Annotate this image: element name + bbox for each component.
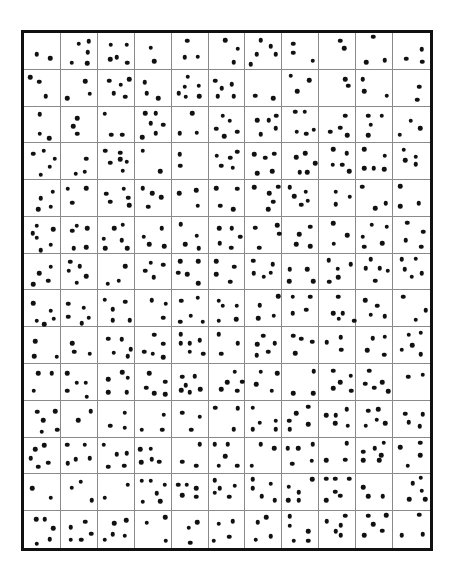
dot xyxy=(52,317,57,322)
dot xyxy=(141,234,146,239)
dot xyxy=(267,118,272,123)
dot xyxy=(48,165,53,170)
dot xyxy=(250,486,255,491)
grid-cell xyxy=(61,107,98,144)
dot xyxy=(122,463,127,468)
dot xyxy=(74,380,79,385)
dot xyxy=(273,126,278,131)
grid-cell xyxy=(209,70,246,107)
dot xyxy=(183,242,188,247)
dot xyxy=(419,352,424,357)
dot xyxy=(106,377,111,382)
dot xyxy=(157,460,162,465)
dot xyxy=(228,155,233,160)
dot xyxy=(255,353,260,358)
dot xyxy=(42,322,47,327)
grid-cell xyxy=(209,401,246,438)
grid-cell xyxy=(135,254,172,291)
dot xyxy=(240,379,245,384)
dot xyxy=(68,260,73,265)
dot xyxy=(119,337,124,342)
dot xyxy=(347,169,352,174)
dot xyxy=(106,465,111,470)
dot xyxy=(252,152,257,157)
dot xyxy=(287,279,292,284)
dot xyxy=(213,490,218,495)
dot xyxy=(345,133,350,138)
dot xyxy=(152,59,157,64)
dot xyxy=(291,334,296,339)
dot xyxy=(410,481,415,486)
grid-cell xyxy=(393,70,430,107)
dot xyxy=(287,267,292,272)
dot xyxy=(382,314,387,319)
dot xyxy=(236,46,241,51)
dot xyxy=(349,262,354,267)
dot xyxy=(65,371,70,376)
grid-cell xyxy=(98,254,135,291)
dot xyxy=(232,264,237,269)
dot xyxy=(217,226,222,231)
dot xyxy=(304,308,309,313)
dot xyxy=(236,341,241,346)
dot xyxy=(305,170,310,175)
dot xyxy=(229,82,234,87)
grid-cell xyxy=(282,364,319,401)
dot xyxy=(331,163,336,168)
dot xyxy=(287,484,292,489)
dot xyxy=(377,458,382,463)
dot xyxy=(366,409,371,414)
dot xyxy=(420,412,425,417)
dot xyxy=(158,499,163,504)
dot xyxy=(79,321,84,326)
dot xyxy=(400,533,405,538)
dot xyxy=(296,490,301,495)
grid-cell xyxy=(245,364,282,401)
dot xyxy=(310,442,315,447)
dot xyxy=(38,248,43,253)
dot xyxy=(149,457,154,462)
dot xyxy=(115,55,120,60)
dot xyxy=(418,126,423,131)
dot xyxy=(83,443,88,448)
dot xyxy=(33,339,38,344)
dot xyxy=(362,533,367,538)
dot xyxy=(345,441,350,446)
dot xyxy=(306,422,311,427)
dot xyxy=(72,246,77,251)
dot xyxy=(418,453,423,458)
dot xyxy=(258,420,263,425)
grid-cell xyxy=(24,474,61,511)
grid-cell xyxy=(209,254,246,291)
dot xyxy=(75,132,80,137)
dot xyxy=(159,195,164,200)
grid-cell xyxy=(319,143,356,180)
dot xyxy=(364,60,369,65)
dot xyxy=(123,264,128,269)
dot xyxy=(296,498,301,503)
dot xyxy=(179,388,184,393)
dot xyxy=(111,532,116,537)
dot xyxy=(108,57,113,62)
grid-cell xyxy=(135,180,172,217)
dot xyxy=(272,446,277,451)
grid-cell xyxy=(209,107,246,144)
dot xyxy=(406,374,411,379)
dot xyxy=(201,352,206,357)
dot xyxy=(312,128,317,133)
dot xyxy=(65,186,70,191)
dot xyxy=(184,483,189,488)
dot xyxy=(90,498,95,503)
dot xyxy=(299,203,304,208)
dot xyxy=(46,460,51,465)
grid-cell xyxy=(172,474,209,511)
dot xyxy=(180,493,185,498)
dot xyxy=(153,111,158,116)
dot xyxy=(108,424,113,429)
dot xyxy=(347,476,352,481)
dot xyxy=(214,259,219,264)
dot xyxy=(255,520,260,525)
dot xyxy=(336,266,341,271)
dot xyxy=(28,75,33,80)
dot xyxy=(34,541,39,546)
